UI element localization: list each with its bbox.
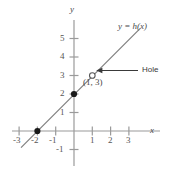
hole-coordinates-label: (1, 3): [83, 78, 103, 87]
data-point-filled-y-intercept: [71, 91, 77, 97]
graph-figure: y x 5 4 3 2 1 -1 -3 -2 -1 1 2 3 y = h(x)…: [0, 0, 172, 169]
data-point-filled-x-intercept: [34, 128, 40, 134]
x-tick-label-1: 1: [90, 136, 95, 145]
y-tick-label-2: 2: [60, 89, 65, 98]
hole-callout-label: Hole: [142, 66, 158, 74]
x-tick-label-minus-2: -2: [31, 136, 39, 145]
y-tick-label-5: 5: [60, 34, 65, 43]
x-axis-label: x: [150, 126, 154, 135]
x-tick-label-2: 2: [108, 136, 113, 145]
x-tick-label-3: 3: [126, 136, 131, 145]
hole-arrow: [96, 68, 138, 73]
x-tick-label-minus-1: -1: [49, 136, 57, 145]
y-tick-label-4: 4: [60, 52, 65, 61]
y-tick-label-3: 3: [60, 71, 65, 80]
x-tick-label-minus-3: -3: [13, 136, 21, 145]
y-tick-label-minus-1: -1: [56, 145, 64, 154]
curve-equation-label: y = h(x): [118, 22, 147, 31]
y-axis-label: y: [70, 5, 74, 14]
y-tick-label-1: 1: [60, 108, 65, 117]
